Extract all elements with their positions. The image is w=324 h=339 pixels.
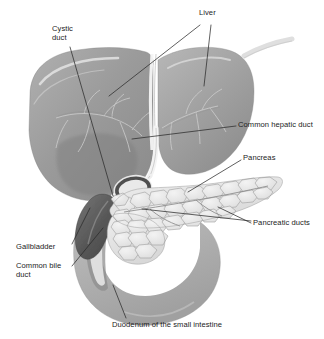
anatomy-illustration [0,0,324,339]
label-cystic-duct: Cystic duct [52,24,73,43]
anatomy-figure: Cystic duct Liver Common hepatic duct Pa… [0,0,324,339]
label-liver: Liver [199,8,216,17]
label-pancreas: Pancreas [243,153,275,162]
label-duodenum: Duodenum of the small intestine [112,320,222,329]
label-common-hepatic-duct: Common hepatic duct [238,120,313,129]
label-pancreatic-ducts: Pancreatic ducts [253,218,310,227]
label-gallbladder: Gallbladder [16,242,55,251]
label-common-bile-duct: Common bile duct [16,261,61,280]
